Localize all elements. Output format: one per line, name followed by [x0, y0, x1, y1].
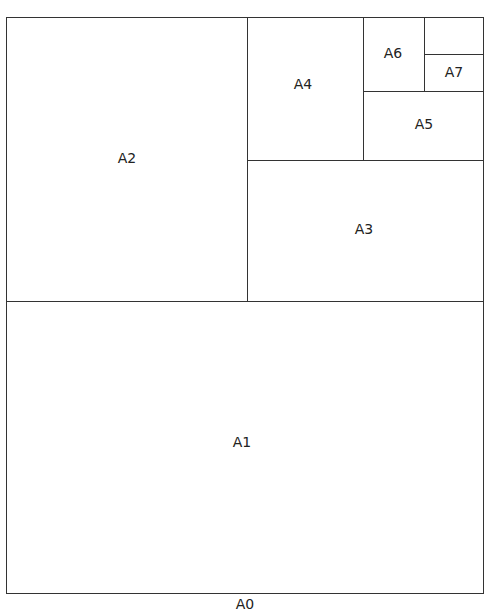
- a1-label: A1: [233, 434, 251, 450]
- a3-label: A3: [355, 221, 373, 237]
- a4-label: A4: [294, 76, 312, 92]
- a7-label: A7: [445, 64, 463, 80]
- a0-label: A0: [236, 596, 254, 612]
- a6-label: A6: [384, 45, 402, 61]
- a2-label: A2: [118, 150, 136, 166]
- a5-label: A5: [415, 116, 433, 132]
